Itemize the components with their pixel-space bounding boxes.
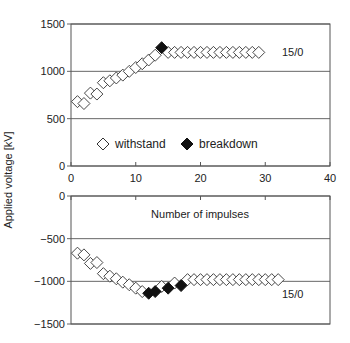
x-tick-label: 30 [259, 172, 271, 184]
top-annotation-ratio: 15/0 [282, 46, 303, 58]
chart-canvas: 050010001500010203040 0−500−1000−1500 Ap… [0, 0, 350, 343]
y-tick-label: 1500 [41, 18, 65, 30]
top-panel-positive-polarity: 050010001500010203040 [41, 18, 337, 184]
y-tick-label: 0 [59, 190, 65, 202]
x-axis-title: Number of impulses [151, 208, 249, 220]
legend-label-withstand: withstand [114, 137, 166, 151]
open-diamond-icon [97, 138, 109, 150]
x-tick-label: 20 [194, 172, 206, 184]
y-tick-label: −500 [40, 233, 65, 245]
y-tick-label: −1000 [34, 275, 65, 287]
filled-diamond-icon [181, 138, 193, 150]
y-tick-label: 1000 [41, 65, 65, 77]
x-tick-label: 0 [68, 172, 74, 184]
y-tick-label: 500 [47, 113, 65, 125]
x-tick-label: 40 [324, 172, 336, 184]
y-tick-label: 0 [59, 160, 65, 172]
x-tick-label: 10 [130, 172, 142, 184]
legend-item-breakdown: breakdown [181, 137, 258, 151]
bottom-annotation-ratio: 15/0 [282, 288, 303, 300]
legend-item-withstand: withstand [97, 137, 166, 151]
legend-label-breakdown: breakdown [199, 137, 258, 151]
y-tick-label: −1500 [34, 318, 65, 330]
legend: withstand breakdown [97, 137, 258, 151]
y-axis-title: Applied voltage [kV] [2, 131, 14, 228]
impulse-test-chart: 050010001500010203040 0−500−1000−1500 Ap… [0, 0, 350, 343]
